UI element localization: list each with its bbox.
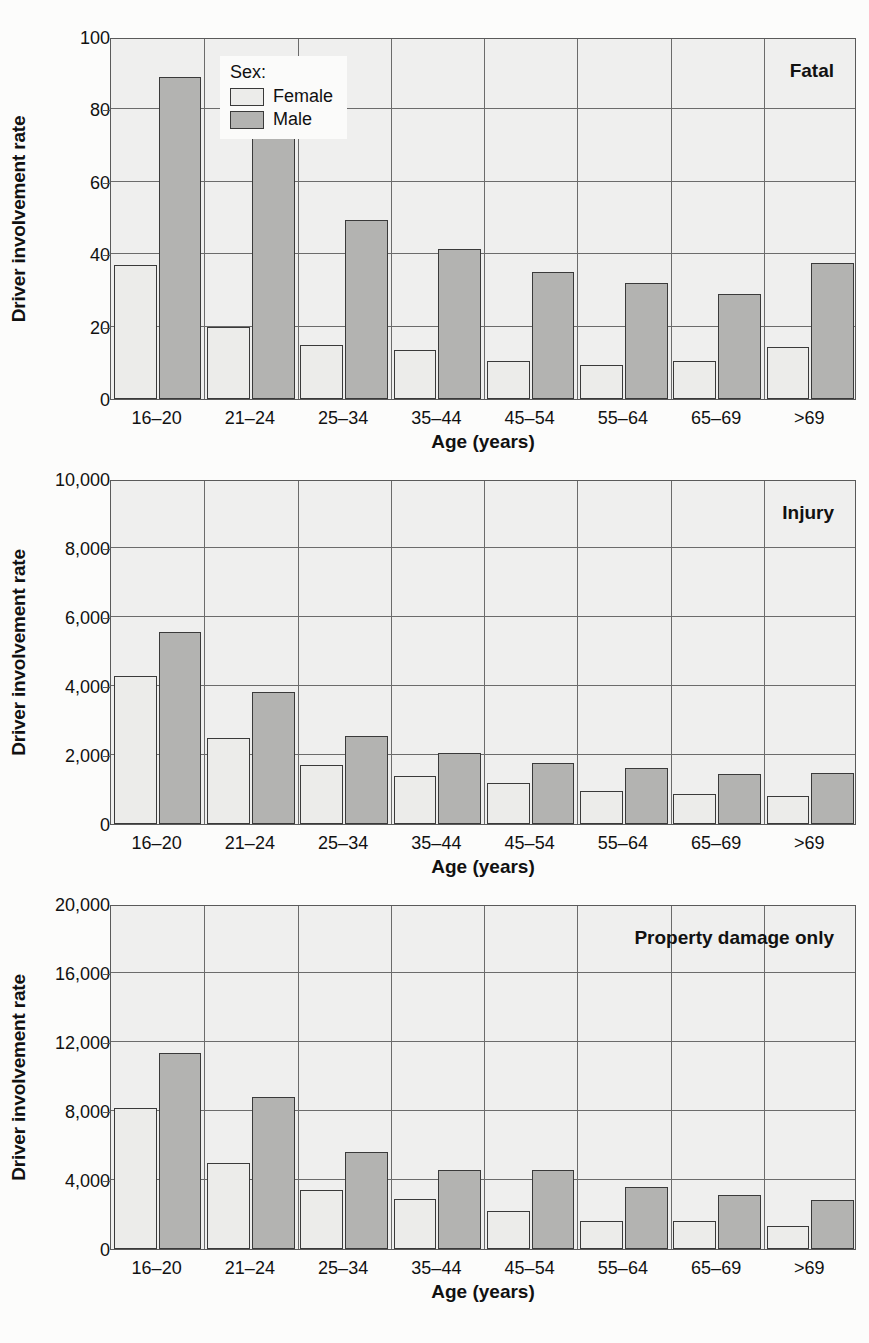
y-axis-title: Driver involvement rate: [8, 38, 34, 400]
gridline-vertical: [764, 481, 765, 824]
x-axis-tick-label: 65–69: [691, 833, 741, 854]
bar-male: [252, 135, 295, 399]
y-axis-tick-mark: [103, 1112, 110, 1113]
bar-female: [580, 365, 623, 399]
bar-male: [159, 77, 202, 399]
plot-inner: [111, 906, 855, 1249]
y-axis-tick-label: 0: [0, 1240, 117, 1261]
y-axis-tick-label: 40: [0, 245, 117, 266]
bar-male: [811, 773, 854, 824]
y-axis-title: Driver involvement rate: [8, 480, 34, 825]
y-axis-tick-label: 20: [0, 317, 117, 338]
y-axis-tick-mark: [103, 328, 110, 329]
gridline-horizontal: [111, 253, 855, 254]
y-axis-tick-label: 4,000: [0, 1171, 117, 1192]
gridline-vertical: [484, 481, 485, 824]
y-axis-tick-label: 20,000: [0, 895, 117, 916]
gridline-vertical: [671, 481, 672, 824]
bar-female: [114, 676, 157, 824]
gridline-vertical: [391, 481, 392, 824]
bar-female: [300, 765, 343, 824]
bar-female: [207, 1163, 250, 1249]
legend-swatch-icon: [230, 111, 264, 129]
y-axis-tick-label: 4,000: [0, 677, 117, 698]
y-axis-tick-label: 0: [0, 390, 117, 411]
x-axis-tick-label: 21–24: [225, 833, 275, 854]
x-axis-tick-label: 21–24: [225, 1258, 275, 1279]
legend-item-label: Female: [273, 87, 333, 107]
gridline-vertical: [484, 906, 485, 1249]
x-axis-tick-label: 55–64: [598, 408, 648, 429]
y-axis-tick-label: 6,000: [0, 608, 117, 629]
x-axis-tick-label: 65–69: [691, 408, 741, 429]
legend-item-female: Female: [230, 87, 333, 107]
x-axis-tick-label: 35–44: [411, 833, 461, 854]
bar-female: [394, 1199, 437, 1249]
gridline-vertical: [391, 39, 392, 399]
bar-female: [580, 1221, 623, 1249]
bar-male: [532, 272, 575, 399]
bar-male: [718, 294, 761, 399]
bar-female: [673, 1221, 716, 1249]
gridline-vertical: [391, 906, 392, 1249]
legend-item-label: Male: [273, 110, 312, 130]
bar-female: [673, 794, 716, 824]
y-axis-tick-label: 10,000: [0, 470, 117, 491]
y-axis-tick-mark: [103, 1181, 110, 1182]
x-axis-tick-label: 65–69: [691, 1258, 741, 1279]
bar-male: [811, 1200, 854, 1249]
gridline-vertical: [577, 906, 578, 1249]
bar-female: [487, 1211, 530, 1249]
chart-panel-2: Driver involvement rate02,0004,0006,0008…: [0, 455, 869, 870]
chart-panel-3: Driver involvement rate04,0008,00012,000…: [0, 870, 869, 1343]
gridline-horizontal: [111, 616, 855, 617]
bar-female: [207, 738, 250, 824]
x-axis-tick-label: 21–24: [225, 408, 275, 429]
y-axis-tick-mark: [103, 183, 110, 184]
panel-title: Fatal: [790, 60, 834, 82]
gridline-horizontal: [111, 547, 855, 548]
figure-driver-involvement-rates: Driver involvement rate02040608010016–20…: [0, 0, 869, 1343]
bar-female: [300, 1190, 343, 1249]
bar-female: [300, 345, 343, 399]
bar-male: [438, 753, 481, 824]
bar-male: [718, 1195, 761, 1249]
gridline-vertical: [298, 481, 299, 824]
x-axis-title: Age (years): [431, 431, 535, 453]
x-axis-tick-label: 45–54: [505, 833, 555, 854]
x-axis-tick-label: 45–54: [505, 1258, 555, 1279]
x-axis-tick-label: 35–44: [411, 408, 461, 429]
y-axis-tick-label: 12,000: [0, 1033, 117, 1054]
bar-male: [438, 249, 481, 399]
x-axis-tick-label: 16–20: [132, 408, 182, 429]
bar-female: [767, 796, 810, 824]
gridline-vertical: [671, 906, 672, 1249]
x-axis-title: Age (years): [431, 1281, 535, 1303]
y-axis-tick-label: 2,000: [0, 746, 117, 767]
bar-female: [673, 361, 716, 399]
x-axis-tick-label: 55–64: [598, 833, 648, 854]
x-axis-tick-label: 45–54: [505, 408, 555, 429]
bar-female: [580, 791, 623, 824]
legend: Sex:FemaleMale: [220, 56, 347, 139]
bar-male: [532, 1170, 575, 1249]
bar-male: [345, 220, 388, 399]
bar-male: [625, 1187, 668, 1249]
plot-area: [110, 480, 856, 825]
gridline-vertical: [298, 906, 299, 1249]
bar-male: [625, 768, 668, 824]
plot-inner: [111, 481, 855, 824]
gridline-horizontal: [111, 181, 855, 182]
x-axis-tick-label: 16–20: [132, 1258, 182, 1279]
y-axis-tick-label: 60: [0, 172, 117, 193]
gridline-vertical: [764, 39, 765, 399]
gridline-horizontal: [111, 1041, 855, 1042]
y-axis-tick-mark: [103, 756, 110, 757]
gridline-vertical: [577, 39, 578, 399]
gridline-horizontal: [111, 1110, 855, 1111]
bar-male: [345, 1152, 388, 1249]
y-axis-tick-label: 80: [0, 100, 117, 121]
x-axis-tick-label: >69: [794, 833, 825, 854]
y-axis-title: Driver involvement rate: [8, 905, 34, 1250]
gridline-vertical: [764, 906, 765, 1249]
